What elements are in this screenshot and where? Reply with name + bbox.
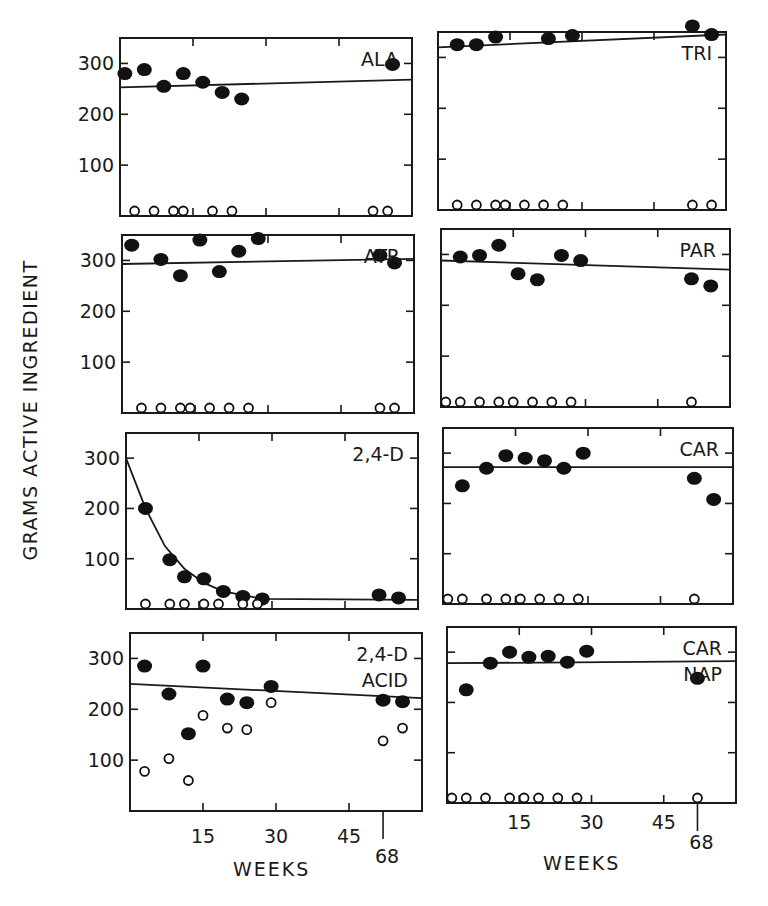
data-point-filled xyxy=(138,502,153,515)
data-point-open xyxy=(379,736,388,745)
data-point-open xyxy=(573,794,582,803)
data-point-open xyxy=(141,600,150,609)
y-tick-label: 100 xyxy=(78,154,114,176)
panel-atr: 100200300ATR xyxy=(80,232,414,413)
data-point-filled xyxy=(479,462,494,475)
panel-car-nap: CARNAP xyxy=(447,627,736,803)
data-point-filled xyxy=(162,553,177,566)
data-point-open xyxy=(505,794,514,803)
data-point-open xyxy=(186,404,195,413)
data-point-open xyxy=(242,725,251,734)
data-point-open xyxy=(164,754,173,763)
data-point-open xyxy=(539,201,548,210)
x-tick-label: 30 xyxy=(579,811,603,833)
panel-title: TRI xyxy=(681,42,712,64)
data-point-open xyxy=(383,207,392,216)
panel-title: CAR xyxy=(683,637,722,659)
data-point-filled xyxy=(521,651,536,664)
data-point-filled xyxy=(231,245,246,258)
y-axis-label: GRAMS ACTIVE INGREDIENT xyxy=(8,140,52,680)
data-point-filled xyxy=(554,249,569,262)
data-point-open xyxy=(180,600,189,609)
data-point-filled xyxy=(483,657,498,670)
data-point-filled xyxy=(469,38,484,51)
data-point-filled xyxy=(518,452,533,465)
fit-line xyxy=(126,458,418,600)
data-point-filled xyxy=(541,32,556,45)
data-point-open xyxy=(693,794,702,803)
data-point-open xyxy=(688,201,697,210)
data-point-filled xyxy=(239,696,254,709)
data-point-filled xyxy=(372,588,387,601)
y-tick-label: 300 xyxy=(80,249,116,271)
data-point-open xyxy=(199,600,208,609)
data-point-open xyxy=(553,794,562,803)
y-tick-label: 300 xyxy=(78,52,114,74)
data-point-filled xyxy=(196,572,211,585)
panel-title: 2,4-D xyxy=(356,643,408,665)
data-point-filled xyxy=(576,447,591,460)
data-point-open xyxy=(472,201,481,210)
data-point-open xyxy=(223,724,232,733)
data-point-open xyxy=(547,398,556,407)
y-tick-label: 300 xyxy=(84,447,120,469)
data-point-open xyxy=(441,398,450,407)
data-point-open xyxy=(369,207,378,216)
data-point-filled xyxy=(488,31,503,44)
data-point-open xyxy=(447,794,456,803)
data-point-filled xyxy=(220,693,235,706)
data-point-filled xyxy=(573,254,588,267)
data-point-open xyxy=(456,398,465,407)
data-point-open xyxy=(375,404,384,413)
panel-title: PAR xyxy=(680,239,716,261)
data-point-filled xyxy=(511,267,526,280)
data-point-filled xyxy=(455,479,470,492)
data-point-open xyxy=(165,600,174,609)
data-point-filled xyxy=(176,67,191,80)
data-point-filled xyxy=(556,462,571,475)
data-point-open xyxy=(156,404,165,413)
x-tick-label-68: 68 xyxy=(689,831,713,853)
data-point-filled xyxy=(472,249,487,262)
data-point-filled xyxy=(376,694,391,707)
panel-title: ACID xyxy=(362,669,408,691)
data-point-open xyxy=(140,767,149,776)
y-tick-label: 200 xyxy=(88,698,124,720)
data-point-open xyxy=(214,600,223,609)
data-point-filled xyxy=(579,645,594,658)
data-point-open xyxy=(491,201,500,210)
data-point-filled xyxy=(565,29,580,42)
data-point-open xyxy=(501,201,510,210)
data-point-open xyxy=(535,595,544,604)
data-point-open xyxy=(179,207,188,216)
data-point-filled xyxy=(391,591,406,604)
data-point-open xyxy=(137,404,146,413)
data-point-open xyxy=(574,595,583,604)
panel-par: PAR xyxy=(441,229,730,407)
y-tick-label: 100 xyxy=(84,548,120,570)
x-tick-label: 15 xyxy=(507,811,531,833)
data-point-filled xyxy=(117,67,132,80)
y-tick-label: 200 xyxy=(78,103,114,125)
data-point-open xyxy=(205,404,214,413)
x-tick-label-68: 68 xyxy=(375,845,399,867)
data-point-filled xyxy=(195,76,210,89)
data-point-filled xyxy=(450,38,465,51)
data-point-filled xyxy=(537,454,552,467)
panel-title: 2,4-D xyxy=(352,443,404,465)
data-point-filled xyxy=(530,273,545,286)
panel-tri: TRI xyxy=(438,19,726,210)
data-point-open xyxy=(130,207,139,216)
data-point-open xyxy=(481,794,490,803)
data-point-filled xyxy=(541,650,556,663)
y-tick-label: 300 xyxy=(88,647,124,669)
data-point-open xyxy=(520,201,529,210)
x-tick-label: 30 xyxy=(264,825,288,847)
y-axis-label-text: GRAMS ACTIVE INGREDIENT xyxy=(19,259,41,560)
y-tick-label: 200 xyxy=(84,497,120,519)
data-point-filled xyxy=(173,269,188,282)
data-point-filled xyxy=(395,695,410,708)
data-point-filled xyxy=(215,86,230,99)
data-point-open xyxy=(453,201,462,210)
data-point-open xyxy=(501,595,510,604)
